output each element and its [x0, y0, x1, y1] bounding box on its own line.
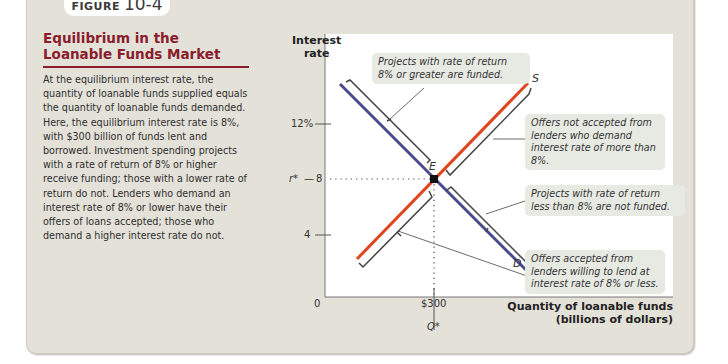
y-tick-8-dash: — [304, 173, 314, 184]
x-axis-title-line2: (billions of dollars) [500, 313, 673, 326]
leader-not-funded [486, 201, 525, 214]
y-tick-rstar: r* [289, 173, 298, 184]
callout-not-accepted: Offers not accepted from lenders who dem… [525, 114, 665, 170]
callout-not-funded: Projects with rate of return less than 8… [525, 185, 685, 216]
y-tick-4: 4 [304, 229, 310, 240]
supply-label: S [532, 72, 539, 85]
leader-funded [390, 88, 424, 119]
y-axis-title: Interest rate [292, 34, 341, 60]
callout-accepted: Offers accepted from lenders willing to … [525, 250, 665, 294]
y-axis-title-line1: Interest [292, 34, 341, 47]
y-tick-8: 8 [316, 173, 322, 184]
x-axis-title-line1: Quantity of loanable funds [500, 300, 673, 313]
bracket-not-accepted [446, 88, 531, 175]
x-axis-title: Quantity of loanable funds (billions of … [500, 300, 673, 326]
bracket-accepted [359, 191, 432, 267]
bracket-funded [346, 80, 430, 163]
origin-label: 0 [314, 298, 320, 309]
equilibrium-point [430, 175, 438, 183]
equilibrium-label: E [429, 160, 436, 173]
demand-label: D [513, 257, 521, 270]
callout-funded: Projects with rate of return 8% or great… [372, 53, 530, 84]
x-tick-300: $300 [421, 298, 446, 309]
supply-curve [357, 83, 528, 259]
x-tick-qstar: Q* [427, 321, 440, 332]
y-axis-title-line2: rate [292, 47, 341, 60]
y-tick-12: 12% [291, 118, 313, 129]
